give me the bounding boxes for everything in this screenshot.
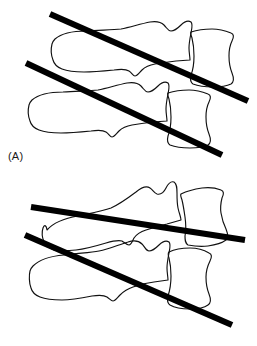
figure-root: (A) (B) bbox=[0, 0, 257, 346]
panel-b-drawing bbox=[0, 175, 257, 346]
lower-reference-line-b bbox=[25, 235, 232, 325]
panel-label-a: (A) bbox=[8, 150, 23, 162]
spinous-process-lower-a bbox=[28, 82, 169, 137]
panel-a: (A) bbox=[0, 0, 257, 175]
spinous-process-upper-b bbox=[42, 182, 181, 251]
panel-b: (B) bbox=[0, 175, 257, 346]
panel-a-drawing bbox=[0, 0, 257, 175]
upper-reference-line-b bbox=[31, 207, 245, 240]
